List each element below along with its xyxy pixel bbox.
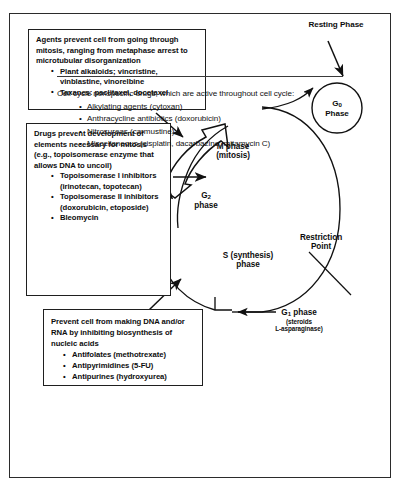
list-item: Antipurines (hydroxyurea) (63, 371, 196, 382)
label-s-phase-line2: phase (236, 260, 259, 269)
textbox-anti-list: Antifolates (methotrexate) Antipyrimidin… (63, 349, 196, 382)
textbox-mitosis-intro: Agents prevent cell from going through m… (36, 35, 199, 67)
footer-nonspecific-drugs: Cell cycle nonspecific drugs, which are … (57, 88, 357, 151)
footer-list: Alkylating agents (cytoxan) Anthracyclin… (79, 101, 357, 151)
footer-divider (57, 76, 343, 77)
list-item: Topoisomerase II inhibitors (doxorubicin… (51, 192, 165, 213)
label-restriction-line2: Point (311, 242, 331, 251)
list-item: Miscellaneous (cisplatin, dacarbazine, m… (79, 138, 357, 151)
textbox-topo-list: Topoisomerase I inhibitors (irinotecan, … (51, 171, 165, 224)
label-g1-sub1: (steroids (262, 318, 336, 325)
list-item: Antifolates (methotrexate) (63, 349, 196, 360)
resting-phase-arrow (328, 41, 343, 76)
list-item: Bleomycin (51, 213, 165, 224)
footer-intro: Cell cycle nonspecific drugs, which are … (57, 88, 357, 101)
textbox-antimetabolites: Prevent cell from making DNA and/or RNA … (43, 309, 203, 386)
list-item: Plant alkaloids; vincristine, vinblastin… (51, 67, 199, 88)
label-g2-line2: phase (194, 201, 217, 210)
textbox-anti-intro: Prevent cell from making DNA and/or RNA … (51, 316, 196, 349)
label-g1-line1: G1 phase (281, 308, 316, 317)
label-m-phase-line2: (mitosis) (216, 151, 250, 160)
list-item: Anthracycline antibiotics (doxorubicin) (79, 113, 357, 126)
label-s-phase-line1: S (synthesis) (223, 251, 273, 260)
label-resting-phase: Resting Phase (306, 20, 366, 29)
figure-frame: Resting Phase G0 Phase M phase (mitosis)… (9, 13, 391, 478)
label-g2-phase: G2 phase (186, 191, 226, 210)
list-item: Nitrosureas (carmustine) (79, 126, 357, 139)
list-item: Alkylating agents (cytoxan) (79, 101, 357, 114)
label-restriction-line1: Restriction (300, 233, 342, 242)
list-item: Topoisomerase I inhibitors (irinotecan, … (51, 171, 165, 192)
label-g2-line1: G2 (201, 191, 211, 200)
label-g1-phase: G1 phase (steroids L-asparaginase) (262, 308, 336, 333)
label-restriction-point: Restriction Point (290, 233, 352, 251)
list-item: Antipyrimidines (5-FU) (63, 360, 196, 371)
label-s-phase: S (synthesis) phase (210, 251, 286, 269)
label-g1-sub2: L-asparaginase) (262, 325, 336, 332)
